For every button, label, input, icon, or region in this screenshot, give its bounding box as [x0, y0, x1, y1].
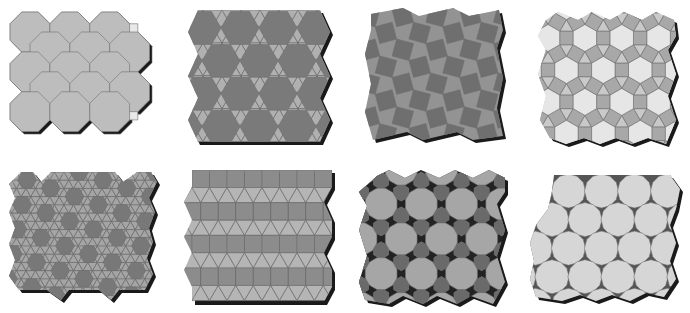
tiling-panel-3-3-3-4-4 — [184, 170, 334, 306]
tiling-panel-3-3-4-3-4 — [361, 8, 509, 146]
figure-caption-clipped — [0, 0, 690, 6]
tiling-panel-3-3-3-3-6 — [7, 172, 157, 308]
truncated-hexagonal-tiling — [530, 173, 680, 303]
rhombitrihexagonal-tiling — [536, 10, 684, 145]
tiling-panel-3-4-6-4 — [536, 10, 684, 145]
elongated-triangular-tiling — [184, 170, 334, 306]
tiling-panel-4-8-8 — [8, 10, 158, 142]
trihexagonal-tiling — [184, 10, 334, 146]
snub-hexagonal-tiling — [7, 172, 157, 308]
tiling-panel-3-12-12 — [530, 173, 680, 303]
tiling-panel-4-6-12 — [359, 170, 509, 308]
snub-square-tiling — [361, 8, 509, 146]
truncated-square-tiling — [8, 10, 158, 142]
truncated-trihexagonal-tiling — [359, 170, 509, 308]
tiling-panel-3-6-3-6 — [184, 10, 334, 146]
